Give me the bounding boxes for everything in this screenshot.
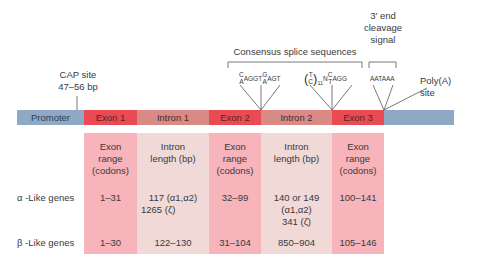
alpha-exon-3: 100–141 — [332, 192, 384, 204]
beta-intron-2: 850–904 — [261, 237, 332, 249]
header-line: Exon — [84, 141, 137, 153]
polya-site-label: Poly(A) site — [420, 75, 460, 99]
alpha-intron-2: 140 or 149 (α1,α2) 341 (ζ) — [261, 192, 332, 228]
header-line: length (bp) — [261, 153, 332, 165]
alpha-exon-2: 32–99 — [209, 192, 261, 204]
beta-exon-1: 1–30 — [84, 237, 137, 249]
alpha-intron-1-line1: 117 (α1,α2) — [137, 192, 209, 204]
cap-site-label: CAP site 47–56 bp — [45, 69, 111, 93]
cleavage-line2: cleavage — [360, 22, 406, 34]
segment-exon-1: Exon 1 — [84, 110, 137, 125]
segment-intron-1: Intron 1 — [137, 110, 209, 125]
alpha-exon-1: 1–31 — [84, 192, 137, 204]
header-intron-2: Intronlength (bp) — [261, 141, 332, 165]
acceptor-consensus-sequence: (TC)11NCTAGG — [304, 71, 347, 87]
segment-intron-2: Intron 2 — [261, 110, 332, 125]
beta-intron-1: 122–130 — [137, 237, 209, 249]
header-line: Exon — [209, 141, 261, 153]
header-line: range — [84, 153, 137, 165]
segment-exon-2: Exon 2 — [209, 110, 261, 125]
beta-exon-2: 31–104 — [209, 237, 261, 249]
polya-line1: Poly(A) — [420, 75, 460, 87]
header-line: range — [209, 153, 261, 165]
splice-sequences-title: Consensus splice sequences — [222, 46, 368, 58]
header-line: Intron — [261, 141, 332, 153]
header-exon-1: Exonrange(codons) — [84, 141, 137, 177]
polya-line2: site — [420, 87, 460, 99]
header-line: length (bp) — [137, 153, 209, 165]
alpha-intron-1-line2: 1265 (ζ) — [137, 204, 209, 216]
alpha-intron-2-line3: 341 (ζ) — [261, 216, 332, 228]
alpha-intron-2-line2: (α1,α2) — [261, 204, 332, 216]
donor-mid: AGGT — [244, 75, 262, 82]
cleavage-signal-label: 3' end cleavage signal — [360, 10, 406, 46]
donor-consensus-sequence: CAAGGTGAAGT — [239, 71, 281, 85]
header-line: (codons) — [332, 165, 384, 177]
header-line: (codons) — [84, 165, 137, 177]
row-label-alpha: α -Like genes — [17, 192, 74, 203]
cap-site-distance: 47–56 bp — [45, 81, 111, 93]
segment-exon-3: Exon 3 — [332, 110, 384, 125]
header-line: Intron — [137, 141, 209, 153]
header-intron-1: Intronlength (bp) — [137, 141, 209, 165]
header-line: range — [332, 153, 384, 165]
segment-3prime-flank — [384, 110, 454, 125]
cleavage-line1: 3' end — [360, 10, 406, 22]
polya-signal-sequence: AATAAA — [370, 75, 395, 82]
header-exon-3: Exonrange(codons) — [332, 141, 384, 177]
segment-promoter: Promoter — [17, 110, 84, 125]
acceptor-end: AGG — [333, 75, 347, 82]
header-line: Exon — [332, 141, 384, 153]
row-label-beta: β -Like genes — [17, 237, 74, 248]
cleavage-line3: signal — [360, 34, 406, 46]
beta-exon-3: 105–146 — [332, 237, 384, 249]
donor-end: AGT — [267, 75, 280, 82]
cap-site-title: CAP site — [45, 69, 111, 81]
alpha-intron-2-line1: 140 or 149 — [261, 192, 332, 204]
alpha-intron-1: 117 (α1,α2) 1265 (ζ) — [137, 192, 209, 216]
header-line: (codons) — [209, 165, 261, 177]
header-exon-2: Exonrange(codons) — [209, 141, 261, 177]
